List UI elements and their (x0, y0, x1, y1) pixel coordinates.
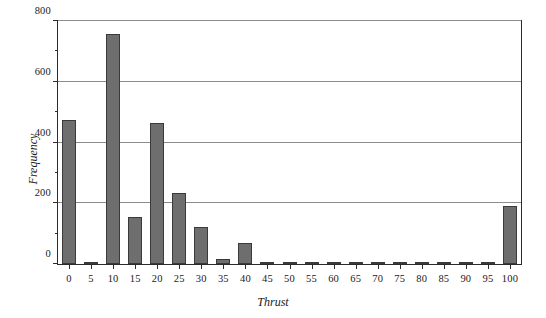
x-tick-label-30: 30 (196, 273, 207, 284)
bar (260, 262, 274, 265)
x-tick-label-65: 65 (350, 273, 361, 284)
bar-series (58, 21, 521, 264)
x-tick-mark-45 (267, 264, 268, 269)
bar (437, 262, 451, 265)
x-tick-mark-0 (69, 264, 70, 269)
bar (371, 262, 385, 265)
x-tick-mark-30 (201, 264, 202, 269)
bar (238, 243, 252, 264)
x-tick-mark-55 (312, 264, 313, 269)
x-tick-mark-70 (378, 264, 379, 269)
x-tick-mark-15 (135, 264, 136, 269)
x-tick-label-70: 70 (372, 273, 383, 284)
x-tick-label-90: 90 (460, 273, 471, 284)
x-tick-label-15: 15 (130, 273, 141, 284)
x-axis-title: Thrust (0, 295, 546, 310)
bar (84, 262, 98, 265)
bar (283, 262, 297, 265)
x-tick-mark-85 (444, 264, 445, 269)
x-tick-label-0: 0 (66, 273, 71, 284)
x-tick-mark-10 (113, 264, 114, 269)
bar (327, 262, 341, 265)
x-tick-label-50: 50 (284, 273, 295, 284)
x-tick-label-100: 100 (502, 273, 518, 284)
x-tick-label-20: 20 (152, 273, 163, 284)
x-tick-mark-5 (91, 264, 92, 269)
x-tick-label-35: 35 (218, 273, 229, 284)
x-tick-label-55: 55 (306, 273, 317, 284)
x-tick-label-25: 25 (174, 273, 185, 284)
x-tick-mark-25 (179, 264, 180, 269)
bar (393, 262, 407, 265)
x-tick-mark-40 (245, 264, 246, 269)
y-tick-label-800: 800 (35, 5, 51, 16)
x-tick-mark-20 (157, 264, 158, 269)
bar (481, 262, 495, 265)
y-tick-label-200: 200 (35, 187, 51, 198)
bar (216, 259, 230, 264)
y-tick-label-400: 400 (35, 126, 51, 137)
bar (503, 206, 517, 264)
y-tick-label-600: 600 (35, 65, 51, 76)
bar (128, 217, 142, 264)
bar (150, 123, 164, 264)
bar (459, 262, 473, 265)
x-tick-label-95: 95 (482, 273, 493, 284)
x-tick-mark-95 (488, 264, 489, 269)
bar (62, 120, 76, 264)
bar (349, 262, 363, 265)
x-tick-label-80: 80 (416, 273, 427, 284)
bar (415, 262, 429, 265)
x-tick-label-5: 5 (88, 273, 93, 284)
x-tick-label-10: 10 (108, 273, 119, 284)
x-tick-label-40: 40 (240, 273, 251, 284)
bar (106, 34, 120, 264)
plot-area: 0200400600800 05101520253035404550556065… (57, 20, 522, 265)
bar (172, 193, 186, 264)
x-tick-mark-35 (223, 264, 224, 269)
x-tick-mark-100 (510, 264, 511, 269)
bar (305, 262, 319, 265)
histogram-figure: Frequency 0200400600800 0510152025303540… (0, 0, 546, 318)
x-tick-mark-65 (356, 264, 357, 269)
y-axis-title: Frequency (26, 134, 41, 185)
x-tick-label-45: 45 (262, 273, 273, 284)
x-tick-mark-80 (422, 264, 423, 269)
x-tick-label-85: 85 (438, 273, 449, 284)
bar (194, 227, 208, 264)
y-tick-label-0: 0 (46, 248, 51, 259)
x-tick-mark-50 (290, 264, 291, 269)
x-tick-mark-75 (400, 264, 401, 269)
x-tick-mark-60 (334, 264, 335, 269)
x-tick-label-60: 60 (328, 273, 339, 284)
x-tick-mark-90 (466, 264, 467, 269)
x-tick-label-75: 75 (394, 273, 405, 284)
